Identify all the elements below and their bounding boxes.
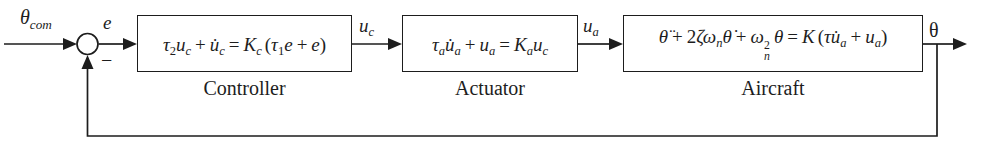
minus-sign-label: −: [101, 50, 112, 70]
output-signal-label: θ: [929, 20, 939, 40]
ua-signal-label: ua: [583, 14, 599, 35]
controller-equation: τ2uc+u̇c=Kc(τ1e+e): [163, 33, 326, 54]
input-signal-label: θcom: [20, 5, 52, 27]
feedback-arrowhead-icon: [82, 55, 94, 69]
uc-signal-label: uc: [359, 14, 374, 35]
aircraft-caption: Aircraft: [623, 76, 923, 100]
aircraft-block: θ̈+2ζωnθ̇+ω2nθ=K(τu̇a+ua): [623, 15, 923, 72]
actuator-block: τau̇a+ua=Kauc: [402, 15, 578, 72]
aircraft-equation: θ̈+2ζωnθ̇+ω2nθ=K(τu̇a+ua): [659, 25, 888, 62]
controller-caption: Controller: [137, 76, 352, 100]
controller-block: τ2uc+u̇c=Kc(τ1e+e): [137, 15, 352, 72]
ua-arrowhead-icon: [609, 38, 623, 50]
error-arrowhead-icon: [123, 38, 137, 50]
output-arrowhead-icon: [953, 38, 967, 50]
block-diagram-figure: θcom e − uc ua θ τ2uc+u̇c=Kc(τ1e+e) τau̇…: [0, 0, 993, 147]
error-signal-label: e: [103, 13, 111, 32]
actuator-equation: τau̇a+ua=Kauc: [432, 33, 548, 54]
uc-arrowhead-icon: [388, 38, 402, 50]
summing-junction-circle: [77, 34, 98, 55]
actuator-caption: Actuator: [402, 76, 578, 100]
input-arrowhead-icon: [63, 38, 77, 50]
